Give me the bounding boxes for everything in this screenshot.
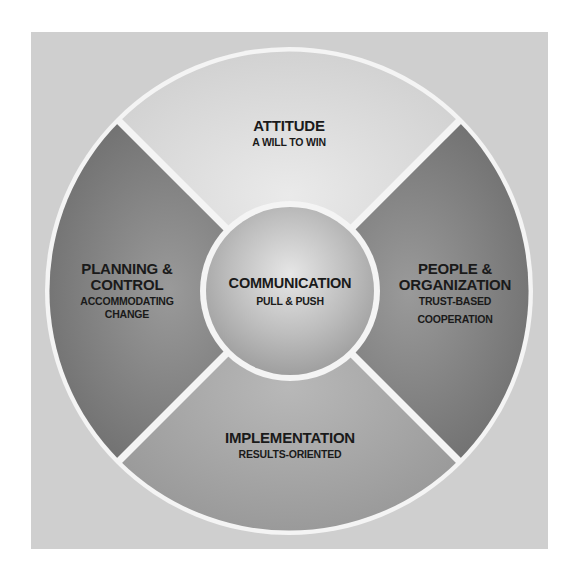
center-hub-label: COMMUNICATION PULL & PUSH — [205, 276, 375, 307]
implementation-subtitle: RESULTS-ORIENTED — [200, 449, 380, 460]
communication-title: COMMUNICATION — [205, 276, 375, 292]
planning-subtitle-line1: ACCOMMODATING — [62, 296, 192, 307]
segment-bottom-label: IMPLEMENTATION RESULTS-ORIENTED — [200, 430, 380, 461]
planning-title-line2: CONTROL — [62, 277, 192, 293]
implementation-title: IMPLEMENTATION — [200, 430, 380, 446]
people-title-line1: PEOPLE & — [380, 261, 530, 277]
people-subtitle-line2: COOPERATION — [380, 314, 530, 325]
planning-title-line1: PLANNING & — [62, 261, 192, 277]
segment-right-label: PEOPLE & ORGANIZATION TRUST-BASED COOPER… — [380, 261, 530, 325]
attitude-subtitle: A WILL TO WIN — [209, 137, 369, 148]
attitude-title: ATTITUDE — [209, 118, 369, 134]
planning-subtitle-line2: CHANGE — [62, 309, 192, 320]
segment-left-label: PLANNING & CONTROL ACCOMMODATING CHANGE — [62, 261, 192, 320]
segment-top-label: ATTITUDE A WILL TO WIN — [209, 118, 369, 149]
people-title-line2: ORGANIZATION — [380, 277, 530, 293]
people-subtitle-line1: TRUST-BASED — [380, 296, 530, 307]
communication-subtitle: PULL & PUSH — [205, 296, 375, 307]
